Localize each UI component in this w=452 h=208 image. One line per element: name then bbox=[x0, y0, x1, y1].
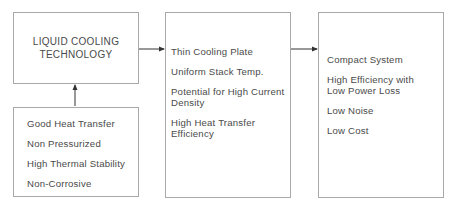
connector-arrows bbox=[0, 0, 452, 208]
